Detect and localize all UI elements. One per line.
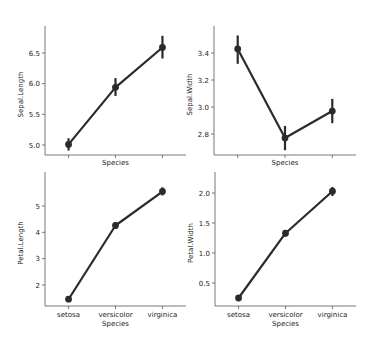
iris-pointplot-figure: 5.05.56.06.5SpeciesSepal.Length2.83.03.2… [0,0,378,340]
data-point [282,230,289,237]
y-tick-label: 2 [36,282,40,290]
y-axis-label: Sepal.Width [186,74,194,116]
x-tick-label: virginica [148,311,178,319]
x-tick-label: setosa [57,311,80,319]
data-point [282,135,289,142]
x-axis-label: Species [102,159,129,167]
y-tick-label: 1.0 [199,250,210,258]
subplot-top-left: 5.05.56.06.5SpeciesSepal.Length [17,26,186,167]
data-point [159,44,166,51]
y-tick-label: 6.5 [29,50,40,58]
x-axis-label: Species [272,159,299,167]
subplot-top-right: 2.83.03.23.4SpeciesSepal.Width [186,26,356,167]
y-axis-label: Petal.Width [187,223,195,263]
data-point [235,295,242,302]
y-tick-label: 3 [36,255,40,263]
x-axis-label: Species [272,320,299,328]
y-tick-label: 3.4 [198,50,210,58]
data-point [329,188,336,195]
x-axis-label: Species [102,320,129,328]
x-tick-label: virginica [318,311,348,319]
y-tick-label: 2.0 [199,190,210,198]
y-tick-label: 5.5 [29,111,40,119]
y-tick-label: 3.0 [198,104,209,112]
data-point [112,84,119,91]
y-axis-label: Petal.Length [17,221,25,265]
mean-line [69,192,163,300]
y-tick-label: 2.8 [198,131,209,139]
y-tick-label: 1.5 [199,220,210,228]
x-tick-label: versicolor [268,311,302,319]
y-tick-label: 5 [36,203,40,211]
subplot-bottom-left: 2345setosaversicolorvirginicaSpeciesPeta… [17,172,186,328]
data-point [65,141,72,148]
data-point [329,108,336,115]
y-tick-label: 0.5 [199,280,210,288]
data-point [65,296,72,303]
y-tick-label: 6.0 [29,80,40,88]
subplot-bottom-right: 0.51.01.52.0setosaversicolorvirginicaSpe… [187,172,356,328]
x-tick-label: versicolor [98,311,132,319]
x-tick-label: setosa [227,311,250,319]
y-tick-label: 3.2 [198,77,209,85]
y-tick-label: 5.0 [29,142,40,150]
y-axis-label: Sepal.Length [17,72,25,118]
data-point [159,188,166,195]
data-point [112,222,119,229]
mean-line [239,191,333,298]
y-tick-label: 4 [36,229,41,237]
mean-line [238,49,333,138]
data-point [234,46,241,53]
